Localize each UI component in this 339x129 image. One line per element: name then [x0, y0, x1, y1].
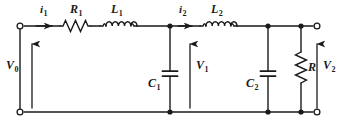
junction-dot-c1-bottom — [167, 109, 172, 114]
label-current-i2: i2 — [179, 4, 186, 15]
terminal-input-top — [17, 23, 23, 29]
label-voltage-v1: V1 — [196, 59, 208, 71]
label-inductor-l2: L2 — [211, 3, 222, 15]
label-capacitor-c1: C1 — [148, 77, 160, 89]
label-inductor-l1: L1 — [111, 3, 122, 15]
label-current-i1: i1 — [40, 4, 47, 15]
junction-dot-c2-top — [265, 23, 270, 28]
label-voltage-v0: V0 — [6, 59, 18, 71]
resistor-r1-symbol — [60, 21, 91, 32]
label-voltage-v2: V2 — [323, 59, 335, 71]
circuit-junction-dots — [167, 23, 303, 114]
terminal-output-top — [314, 23, 320, 29]
resistor-r-symbol — [296, 52, 307, 83]
inductor-l1-lead-left — [100, 24, 106, 26]
circuit-schematic-svg — [0, 0, 339, 129]
terminal-input-bottom — [17, 109, 23, 115]
junction-dot-c1-top — [167, 23, 172, 28]
terminal-output-bottom — [314, 109, 320, 115]
label-capacitor-c2: C2 — [246, 77, 258, 89]
junction-dot-c2-bottom — [265, 109, 270, 114]
junction-dot-r-bottom — [298, 109, 303, 114]
label-resistor-r1: R1 — [70, 3, 82, 15]
junction-dot-r-top — [298, 23, 303, 28]
circuit-diagram: i1 R1 L1 i2 L2 V0 C1 V1 C2 R V2 — [0, 0, 339, 129]
circuit-wires — [20, 21, 317, 113]
inductor-l2-lead-left — [200, 24, 206, 26]
circuit-terminals — [17, 23, 320, 115]
label-resistor-r: R — [308, 61, 316, 73]
